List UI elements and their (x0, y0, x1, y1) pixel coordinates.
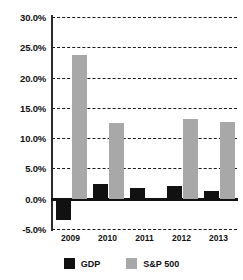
x-tick-label-2010: 2010 (98, 233, 117, 243)
y-axis-tick-labels: 30.0% 25.0% 20.0% 15.0% 10.0% 5.0% 0.0% … (0, 0, 49, 280)
bar-snp500-2012[interactable] (183, 119, 198, 199)
y-tick-label: 25.0% (20, 42, 46, 53)
x-axis-tick-labels: 2009 2010 2011 2012 2013 (52, 233, 237, 249)
y-tick-label: -5.0% (22, 224, 46, 235)
bar-gdp-2010[interactable] (93, 184, 108, 199)
legend-label-snp500: S&P 500 (143, 259, 179, 269)
x-tick-label-2011: 2011 (135, 233, 153, 243)
y-tick-label: 30.0% (20, 12, 46, 23)
legend-swatch-gdp-icon (64, 258, 75, 269)
x-tick-label-2012: 2012 (172, 233, 191, 243)
legend-item-snp500[interactable]: S&P 500 (126, 258, 179, 269)
bar-chart: 30.0% 25.0% 20.0% 15.0% 10.0% 5.0% 0.0% … (0, 0, 243, 280)
legend-swatch-snp500-icon (126, 258, 137, 269)
bar-gdp-2013[interactable] (204, 191, 219, 199)
y-tick-label: 15.0% (20, 102, 46, 113)
x-tick-label-2009: 2009 (61, 233, 80, 243)
y-tick-label: 20.0% (20, 72, 46, 83)
y-tick-label: 0.0% (25, 193, 46, 204)
bar-gdp-2009[interactable] (56, 199, 71, 220)
bar-snp500-2013[interactable] (220, 122, 235, 199)
bar-gdp-2011[interactable] (130, 188, 145, 198)
bar-snp500-2010[interactable] (109, 123, 124, 199)
bar-gdp-2012[interactable] (167, 186, 182, 199)
bar-snp500-2009[interactable] (72, 55, 87, 199)
y-tick-label: 10.0% (20, 133, 46, 144)
legend-label-gdp: GDP (81, 259, 101, 269)
y-tick-label: 5.0% (25, 163, 46, 174)
x-tick-label-2013: 2013 (209, 233, 228, 243)
chart-legend: GDP S&P 500 (0, 258, 243, 269)
legend-item-gdp[interactable]: GDP (64, 258, 101, 269)
